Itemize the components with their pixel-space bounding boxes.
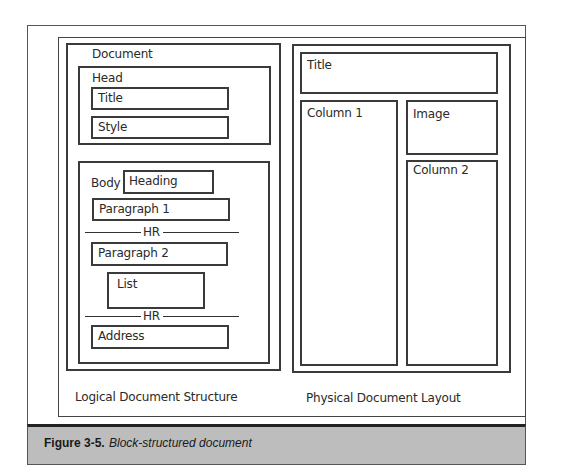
- paragraph1-label: Paragraph 1: [99, 202, 170, 216]
- column2-block: [406, 160, 498, 366]
- head-style-label: Style: [98, 120, 127, 134]
- hr2-label: HR: [143, 309, 160, 323]
- hr1-line-left: [85, 232, 141, 233]
- figure-caption-bar: Figure 3-5. Block-structured document: [27, 424, 526, 465]
- column1-label: Column 1: [307, 106, 363, 120]
- address-label: Address: [98, 329, 144, 343]
- head-title-label: Title: [98, 91, 123, 105]
- hr1-line-right: [163, 232, 239, 233]
- hr2-line-left: [85, 316, 141, 317]
- document-label: Document: [92, 47, 153, 61]
- hr1-label: HR: [143, 225, 160, 239]
- hr2-line-right: [163, 316, 239, 317]
- image-label: Image: [413, 107, 450, 121]
- column1-block: [300, 100, 398, 366]
- list-label: List: [117, 277, 137, 291]
- figure-number: Figure 3-5.: [44, 436, 105, 450]
- column2-label: Column 2: [413, 163, 469, 177]
- physical-layout-caption: Physical Document Layout: [306, 391, 461, 405]
- figure-title: Block-structured document: [109, 436, 252, 450]
- body-label: Body: [91, 176, 121, 190]
- logical-structure-caption: Logical Document Structure: [75, 390, 237, 404]
- layout-title-label: Title: [307, 58, 332, 72]
- paragraph2-label: Paragraph 2: [98, 246, 169, 260]
- head-label: Head: [92, 71, 123, 85]
- heading-label: Heading: [129, 174, 178, 188]
